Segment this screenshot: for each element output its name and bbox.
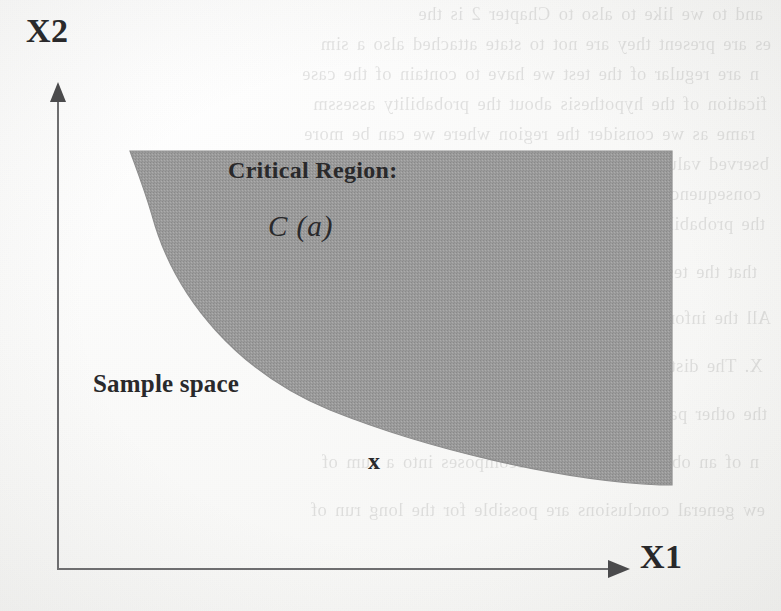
critical-region-title: Critical Region: — [228, 157, 397, 184]
y-axis-line — [57, 96, 59, 570]
x-axis-label: X1 — [640, 538, 683, 576]
paper-background — [0, 0, 781, 611]
x-axis-arrow-icon — [608, 560, 630, 578]
y-axis-arrow-icon — [50, 82, 66, 102]
y-axis-label: X2 — [26, 12, 69, 50]
figure-page: and to we like to also to Chapter 2 is t… — [0, 0, 781, 611]
critical-region-formula: C (a) — [268, 210, 333, 243]
sample-point-marker: x — [368, 448, 380, 475]
x-axis-line — [57, 568, 617, 570]
sample-space-label: Sample space — [93, 370, 239, 398]
